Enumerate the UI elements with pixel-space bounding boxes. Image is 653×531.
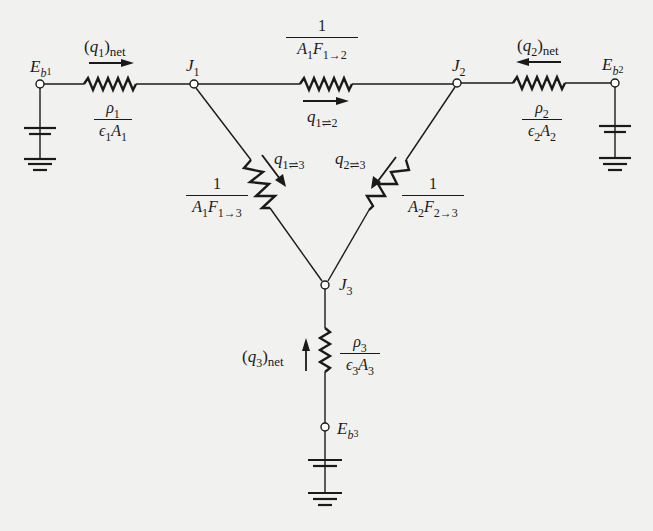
wire-r23-j3 [328,210,369,281]
node-j3 [321,281,329,289]
resistance-r3: ρ3 ϵ3A3 [340,334,380,373]
label-eb3: Eb3 [337,420,358,437]
wire-j1-r13 [196,88,251,160]
resistance-r23: 1 A2F2→3 [402,176,464,215]
label-q13: q1⇌3 [274,150,305,167]
resistance-r1: ρ1 ϵ1A1 [94,100,132,139]
label-j3: J3 [339,276,353,293]
resistance-r12: 1 A1F1→2 [286,18,358,57]
resistor-r3 [320,328,330,372]
label-q3-net: (q3)net [242,348,284,365]
label-j1: J1 [186,57,200,74]
node-eb3 [321,423,329,431]
resistor-r1 [84,78,136,90]
node-j1 [190,80,198,88]
resistor-r12 [300,78,352,90]
resistance-r2: ρ2 ϵ2A2 [522,100,562,139]
label-q12: q1⇌2 [307,108,338,125]
wire-j2-r23 [406,87,455,160]
arrow-up-icon [302,338,310,371]
wire-r13-j3 [270,208,322,281]
node-eb2 [611,79,619,87]
label-q23: q2⇌3 [335,150,366,167]
battery-ground-eb1 [24,88,56,170]
battery-ground-eb3 [308,431,342,505]
arrow-right-icon [89,59,134,67]
label-eb1: Eb1 [30,58,51,75]
node-eb1 [36,80,44,88]
arrow-left-icon [516,58,561,66]
resistor-r2 [513,77,565,89]
battery-ground-eb2 [599,87,631,170]
arrow-right-icon [303,97,349,105]
label-q1-net: (q1)net [84,38,126,55]
label-j2: J2 [452,57,466,74]
node-j2 [453,79,461,87]
resistance-r13: 1 A1F1→3 [186,176,248,215]
label-eb2: Eb2 [602,56,623,73]
label-q2-net: (q2)net [517,37,559,54]
radiation-network-diagram [0,0,653,531]
